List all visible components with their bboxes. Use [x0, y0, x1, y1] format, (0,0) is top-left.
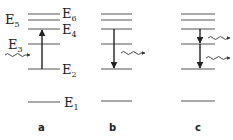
emitted-photon-wave-icon-2	[206, 57, 230, 60]
energy-level-diagram: E6 E5 E4 E3 E2 E1 a b c	[0, 0, 233, 140]
label-e5: E5	[5, 12, 20, 29]
label-e3: E3	[8, 37, 23, 54]
panel-label-a: a	[38, 122, 45, 133]
label-e1: E1	[64, 95, 79, 112]
emitted-photon-wave-icon-1	[208, 37, 230, 40]
label-e2: E2	[62, 62, 77, 79]
panel-a: E6 E5 E4 E3 E2 E1 a	[5, 6, 79, 133]
panel-c: c	[181, 14, 230, 133]
panel-label-b: b	[109, 122, 116, 133]
label-e4: E4	[62, 22, 77, 39]
panel-b: b	[101, 14, 145, 133]
emitted-photon-wave-icon	[121, 52, 145, 55]
panel-label-c: c	[195, 122, 201, 133]
label-e6: E6	[62, 6, 77, 23]
